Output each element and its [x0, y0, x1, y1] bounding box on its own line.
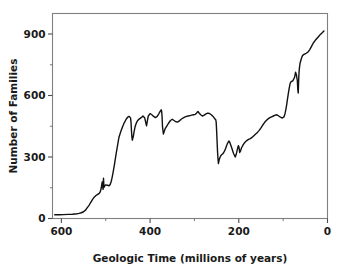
y-tick-label: 300	[24, 151, 46, 163]
x-tick-label: 0	[324, 225, 331, 237]
y-tick-label: 900	[24, 28, 46, 40]
y-axis-title: Number of Families	[7, 59, 19, 174]
x-tick-label: 400	[139, 225, 161, 237]
diversity-line-chart: 0300600900 6004002000 Geologic Time (mil…	[0, 0, 344, 268]
y-tick-label: 0	[38, 212, 45, 224]
x-tick-label: 600	[50, 225, 72, 237]
y-tick-label: 600	[24, 89, 46, 101]
x-tick-label: 200	[228, 225, 250, 237]
x-axis-title: Geologic Time (millions of years)	[93, 252, 288, 264]
chart-figure: 0300600900 6004002000 Geologic Time (mil…	[0, 0, 344, 268]
